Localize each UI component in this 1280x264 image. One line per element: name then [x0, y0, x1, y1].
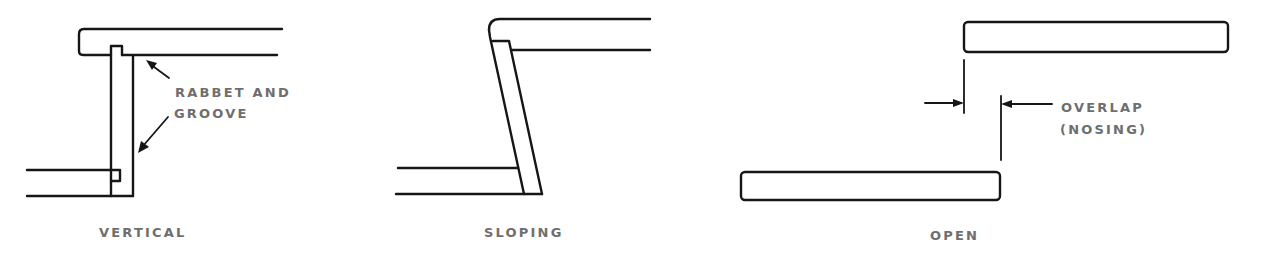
panel-sloping: SLOPING	[396, 19, 650, 240]
stair-riser-diagram: RABBET AND GROOVE VERTICAL SLOPING O	[0, 0, 1280, 264]
callout-nosing: (NOSING)	[1060, 122, 1147, 137]
lower-tread	[741, 172, 1000, 200]
upper-tread	[964, 22, 1228, 52]
caption-open: OPEN	[930, 228, 979, 243]
callout-overlap: OVERLAP	[1061, 100, 1144, 115]
upper-tread	[79, 29, 282, 55]
caption-sloping: SLOPING	[484, 225, 564, 240]
panel-open: OVERLAP (NOSING) OPEN	[741, 22, 1228, 243]
upper-tread-top	[489, 19, 650, 30]
riser-top-edge	[493, 41, 542, 194]
lower-tread-top	[27, 170, 120, 181]
arrowhead-right-icon	[953, 99, 964, 107]
arrowhead-lower-icon	[138, 141, 149, 153]
callout-groove: GROOVE	[174, 106, 249, 121]
callout-arrow-lower	[143, 117, 168, 146]
riser-outer-edge	[489, 30, 524, 194]
arrowhead-left-icon	[1001, 100, 1012, 108]
caption-vertical: VERTICAL	[99, 225, 187, 240]
callout-rabbet-and: RABBET AND	[175, 85, 291, 100]
panel-vertical: RABBET AND GROOVE VERTICAL	[27, 29, 291, 240]
